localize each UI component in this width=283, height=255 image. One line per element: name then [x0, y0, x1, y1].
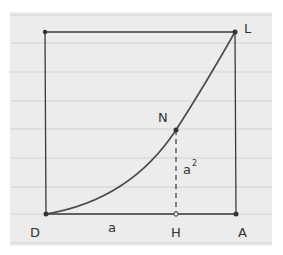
point-H: [174, 212, 178, 216]
geometry-diagram: L N D H A a a 2: [0, 0, 283, 255]
point-D: [44, 212, 49, 217]
point-N: [174, 128, 179, 133]
point-top-left: [43, 30, 47, 34]
label-N: N: [158, 110, 168, 125]
label-segment-a: a: [108, 220, 116, 235]
label-a-squared-exponent: 2: [192, 159, 197, 168]
ruled-lines: [10, 15, 272, 243]
point-A: [234, 212, 239, 217]
label-D: D: [30, 225, 40, 240]
label-L: L: [244, 21, 252, 36]
label-a-squared: a: [183, 162, 191, 177]
label-H: H: [171, 225, 181, 240]
point-L: [233, 30, 238, 35]
label-A: A: [238, 225, 247, 240]
